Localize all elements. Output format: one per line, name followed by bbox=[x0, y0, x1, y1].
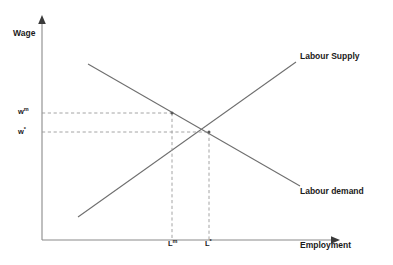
y-axis-title: Wage bbox=[13, 29, 35, 38]
x-axis-title: Employment bbox=[300, 241, 351, 250]
y-tick-wage-equilibrium-superscript: * bbox=[24, 126, 26, 132]
labour-demand-label: Labour demand bbox=[300, 187, 364, 196]
labour-supply-curve bbox=[78, 62, 296, 217]
x-tick-employment-equilibrium: L* bbox=[205, 240, 212, 248]
y-axis bbox=[38, 15, 46, 240]
x-tick-employment-equilibrium-superscript: * bbox=[210, 238, 212, 244]
labour-market-diagram: Wage Employment Labour Supply Labour dem… bbox=[0, 0, 393, 265]
labour-supply-label: Labour Supply bbox=[300, 52, 360, 61]
y-tick-wage-equilibrium: w* bbox=[18, 128, 26, 136]
point-minimum-wage bbox=[171, 112, 174, 115]
x-tick-employment-low-superscript: m bbox=[173, 238, 178, 244]
diagram-canvas bbox=[0, 0, 393, 265]
y-tick-wage-high-superscript: m bbox=[24, 106, 29, 112]
y-tick-wage-high: wm bbox=[18, 108, 29, 116]
point-equilibrium bbox=[208, 131, 211, 134]
x-tick-employment-low: Lm bbox=[168, 240, 177, 248]
x-axis bbox=[42, 236, 340, 244]
